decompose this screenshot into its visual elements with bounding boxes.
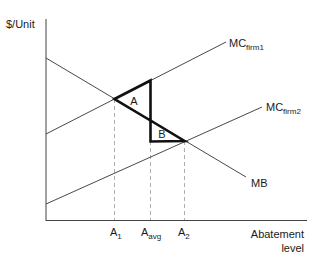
region-b-triangle	[151, 121, 185, 142]
abatement-diagram: A B $/Unit MCfirm1 MCfirm2 MB A1 Aavg A2…	[0, 0, 322, 261]
y-axis-label: $/Unit	[6, 18, 35, 30]
mb-label: MB	[251, 177, 268, 189]
tick-aavg: Aavg	[141, 226, 161, 241]
x-axis-label-line1: Abatement	[251, 228, 304, 240]
region-a-label: A	[130, 95, 138, 107]
x-axis-label-line2: level	[281, 242, 304, 254]
tick-a1: A1	[110, 226, 122, 241]
region-b-label: B	[158, 128, 165, 140]
mc-firm1-label: MCfirm1	[229, 37, 264, 52]
mc-firm2-label: MCfirm2	[266, 101, 301, 116]
tick-a2: A2	[178, 226, 190, 241]
